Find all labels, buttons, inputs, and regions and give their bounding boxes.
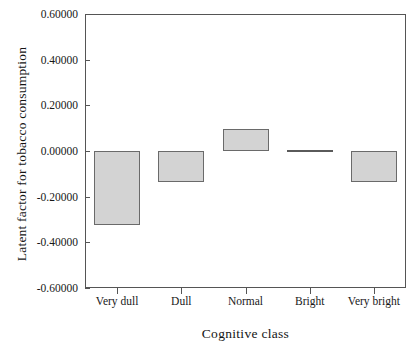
x-tick-label: Very bright [348,295,400,307]
bar [223,129,269,151]
y-tick-mark [85,197,90,198]
y-tick-label: 0.60000 [0,8,78,20]
bar [287,150,333,152]
x-tick-label: Dull [171,295,191,307]
y-tick-label: 0.00000 [0,145,78,157]
y-tick-label: -0.40000 [0,236,78,248]
bar [351,151,397,182]
x-axis-title: Cognitive class [85,326,406,342]
x-tick-mark [374,288,375,294]
y-tick-label: -0.20000 [0,191,78,203]
x-tick-label: Normal [228,295,263,307]
x-tick-mark [117,288,118,294]
bar [158,151,204,182]
x-tick-mark [246,288,247,294]
y-tick-mark [85,60,90,61]
y-tick-mark [85,105,90,106]
y-tick-label: 0.40000 [0,54,78,66]
x-tick-label: Very dull [96,295,138,307]
y-tick-mark [85,288,90,289]
x-tick-mark [310,288,311,294]
y-tick-mark [85,151,90,152]
x-tick-label: Bright [295,295,324,307]
bar [94,151,140,225]
x-tick-mark [181,288,182,294]
y-tick-mark [85,242,90,243]
chart-figure: Latent factor for tobacco consumption 0.… [0,0,420,351]
y-tick-label: 0.20000 [0,99,78,111]
y-tick-label: -0.60000 [0,282,78,294]
y-tick-mark [85,14,90,15]
